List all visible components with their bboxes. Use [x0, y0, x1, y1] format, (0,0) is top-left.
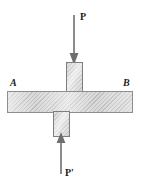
shear-force-diagram: P A B P'	[0, 0, 141, 186]
right-end-label: B	[123, 78, 130, 88]
applied-force-label: P	[80, 12, 86, 22]
horizontal-bar	[7, 91, 133, 113]
upper-vertical-block	[66, 62, 83, 93]
arrow-down-icon	[66, 15, 84, 65]
reaction-force-label: P'	[65, 168, 74, 178]
left-end-label: A	[10, 78, 17, 88]
